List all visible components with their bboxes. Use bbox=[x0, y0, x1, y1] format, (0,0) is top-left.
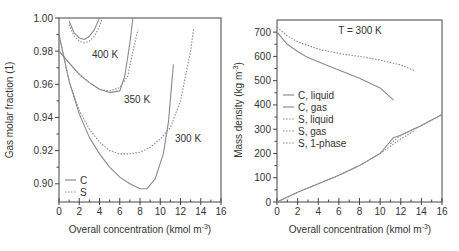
right-x-ticks: 0246810121416 bbox=[274, 198, 448, 217]
x-tick-label: 14 bbox=[416, 206, 428, 217]
right-chart: 0100200300400500600700 0246810121416 T =… bbox=[232, 20, 448, 235]
label-400k: 400 K bbox=[92, 49, 118, 60]
series-s-300-k bbox=[59, 28, 194, 154]
x-tick-label: 0 bbox=[274, 206, 280, 217]
left-x-ticks: 0246810121416 bbox=[56, 198, 227, 217]
y-tick-label: 0.92 bbox=[34, 145, 54, 156]
x-tick-label: 6 bbox=[117, 206, 123, 217]
legend-s-gas: S, gas bbox=[298, 126, 326, 137]
legend-s-liquid: S, liquid bbox=[298, 114, 334, 125]
legend-s-1-phase: S, 1-phase bbox=[298, 138, 347, 149]
x-tick-label: 0 bbox=[56, 206, 62, 217]
figure: 0.900.920.940.960.981.00 0246810121416 4… bbox=[0, 0, 459, 251]
x-tick-label: 12 bbox=[175, 206, 187, 217]
left-legend: C S bbox=[65, 175, 87, 198]
left-x-axis-label: Overall concentration (kmol m-3) bbox=[69, 223, 211, 235]
x-tick-label: 12 bbox=[395, 206, 407, 217]
x-tick-label: 8 bbox=[137, 206, 143, 217]
y-tick-label: 1.00 bbox=[34, 13, 54, 24]
y-tick-label: 100 bbox=[254, 172, 271, 183]
right-y-ticks: 0100200300400500600700 bbox=[254, 27, 277, 208]
y-tick-label: 0.98 bbox=[34, 46, 54, 57]
y-tick-label: 0.90 bbox=[34, 178, 54, 189]
x-tick-label: 16 bbox=[436, 206, 448, 217]
legend-c: C bbox=[80, 175, 87, 186]
left-chart: 0.900.920.940.960.981.00 0246810121416 4… bbox=[4, 13, 227, 236]
y-tick-label: 300 bbox=[254, 124, 271, 135]
y-tick-label: 0.96 bbox=[34, 79, 54, 90]
x-tick-label: 14 bbox=[195, 206, 207, 217]
x-tick-label: 4 bbox=[315, 206, 321, 217]
right-title: T = 300 K bbox=[338, 25, 382, 36]
x-tick-label: 10 bbox=[155, 206, 167, 217]
x-tick-label: 4 bbox=[97, 206, 103, 217]
right-legend: C, liquid C, gas S, liquid S, gas S, 1-p… bbox=[283, 90, 347, 149]
label-300k: 300 K bbox=[175, 133, 201, 144]
x-tick-label: 8 bbox=[357, 206, 363, 217]
x-tick-label: 2 bbox=[76, 206, 82, 217]
y-tick-label: 500 bbox=[254, 75, 271, 86]
x-tick-label: 6 bbox=[336, 206, 342, 217]
left-y-axis-label: Gas molar fraction (1) bbox=[4, 62, 15, 159]
y-tick-label: 600 bbox=[254, 51, 271, 62]
legend-c-gas: C, gas bbox=[298, 102, 327, 113]
legend-c-liquid: C, liquid bbox=[298, 90, 334, 101]
right-x-axis-label: Overall concentration (kmol m-3) bbox=[289, 223, 431, 235]
legend-s: S bbox=[80, 187, 87, 198]
y-tick-label: 0.94 bbox=[34, 112, 54, 123]
label-350k: 350 K bbox=[124, 94, 150, 105]
left-y-ticks: 0.900.920.940.960.981.00 bbox=[34, 13, 59, 190]
y-tick-label: 200 bbox=[254, 148, 271, 159]
series-c-liquid bbox=[277, 32, 394, 100]
right-y-axis-label: Mass density (kg m-3) bbox=[232, 62, 244, 158]
x-tick-label: 10 bbox=[375, 206, 387, 217]
x-tick-label: 2 bbox=[295, 206, 301, 217]
y-tick-label: 400 bbox=[254, 99, 271, 110]
y-tick-label: 0 bbox=[265, 197, 271, 208]
series-s-350-k bbox=[59, 30, 138, 91]
y-tick-label: 700 bbox=[254, 27, 271, 38]
x-tick-label: 16 bbox=[215, 206, 227, 217]
